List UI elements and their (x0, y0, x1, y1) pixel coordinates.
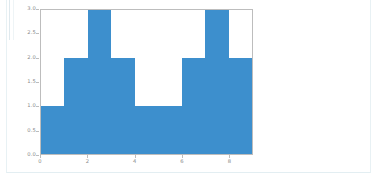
y-axis-tick-label: 2.5 (14, 30, 36, 35)
x-axis-tick-label: 4 (125, 159, 145, 164)
histogram-bar (158, 106, 181, 154)
histogram-bar (64, 58, 87, 154)
x-axis-tick-mark (229, 155, 230, 158)
plot-area (41, 10, 252, 154)
histogram-bar (182, 58, 205, 154)
histogram-bars (41, 10, 252, 154)
histogram-bar (88, 10, 111, 154)
x-axis-tick-label: 6 (172, 159, 192, 164)
histogram-figure: 0.00.51.01.52.02.53.0 02468 (0, 0, 381, 180)
y-axis-tick-mark (36, 131, 39, 132)
y-axis-tick-label: 1.5 (14, 79, 36, 84)
y-axis-tick-mark (36, 106, 39, 107)
y-axis-tick-mark (36, 58, 39, 59)
y-axis-tick-mark (36, 155, 39, 156)
histogram-bar (229, 58, 252, 154)
histogram-bar (135, 106, 158, 154)
x-axis-tick-mark (40, 155, 41, 158)
y-axis-tick-mark (36, 9, 39, 10)
y-axis-tick-mark (36, 33, 39, 34)
plot-axes (40, 9, 253, 155)
histogram-bar (41, 106, 64, 154)
y-axis-tick-label: 2.0 (14, 55, 36, 60)
y-axis-tick-mark (36, 82, 39, 83)
x-axis-tick-mark (135, 155, 136, 158)
x-axis-tick-label: 8 (219, 159, 239, 164)
y-axis-tick-label: 3.0 (14, 6, 36, 11)
x-axis-tick-label: 2 (77, 159, 97, 164)
y-axis-tick-label: 0.5 (14, 128, 36, 133)
histogram-bar (111, 58, 134, 154)
histogram-bar (205, 10, 228, 154)
x-axis-tick-label: 0 (30, 159, 50, 164)
x-axis-tick-mark (87, 155, 88, 158)
y-axis-tick-label: 0.0 (14, 152, 36, 157)
y-axis-tick-label: 1.0 (14, 103, 36, 108)
x-axis-tick-mark (182, 155, 183, 158)
